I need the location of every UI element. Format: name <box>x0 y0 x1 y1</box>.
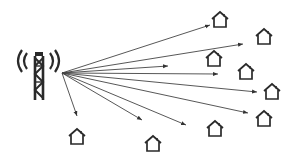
signal-arrow <box>62 73 186 125</box>
house-icon <box>256 111 272 126</box>
signal-arrows <box>62 25 257 125</box>
signal-arrow <box>62 73 77 116</box>
house-icon <box>256 29 272 44</box>
signal-arrow <box>62 73 218 74</box>
cell-tower-icon <box>18 50 59 100</box>
signal-arrow <box>62 73 257 92</box>
signal-arrow <box>62 25 210 73</box>
signal-arrow <box>62 66 168 73</box>
house-icon <box>212 12 228 27</box>
signal-arrow <box>62 44 243 73</box>
house-icon <box>264 84 280 99</box>
house-icon <box>207 121 223 136</box>
house-icon <box>238 64 254 79</box>
signal-arrow <box>62 73 248 113</box>
house-icon <box>206 51 222 66</box>
house-icon <box>145 136 161 151</box>
house-icon <box>69 129 85 144</box>
broadcast-diagram <box>0 0 297 163</box>
